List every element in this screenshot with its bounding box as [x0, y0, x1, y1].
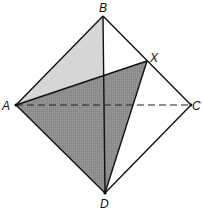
vertex-A-dot	[14, 103, 17, 106]
vertex-D-dot	[103, 191, 106, 194]
label-D: D	[100, 197, 109, 211]
label-A: A	[1, 99, 10, 113]
label-C: C	[192, 99, 201, 113]
label-X: X	[149, 51, 159, 65]
label-B: B	[99, 1, 107, 15]
tetrahedron-diagram: B A C D X	[0, 0, 202, 212]
